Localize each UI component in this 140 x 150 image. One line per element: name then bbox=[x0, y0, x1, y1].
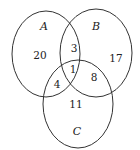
set-b-label: B bbox=[91, 20, 100, 33]
region-a-b-c: 1 bbox=[70, 63, 77, 75]
region-b-c: 8 bbox=[91, 71, 98, 83]
region-a-c: 4 bbox=[54, 78, 61, 90]
set-a-label: A bbox=[39, 20, 48, 33]
venn-diagram: A B C 20 17 11 3 4 8 1 bbox=[0, 0, 140, 150]
region-c-only: 11 bbox=[69, 98, 82, 110]
set-c-label: C bbox=[73, 125, 82, 138]
region-a-b: 3 bbox=[71, 42, 78, 54]
region-b-only: 17 bbox=[109, 52, 122, 64]
region-a-only: 20 bbox=[33, 49, 46, 61]
